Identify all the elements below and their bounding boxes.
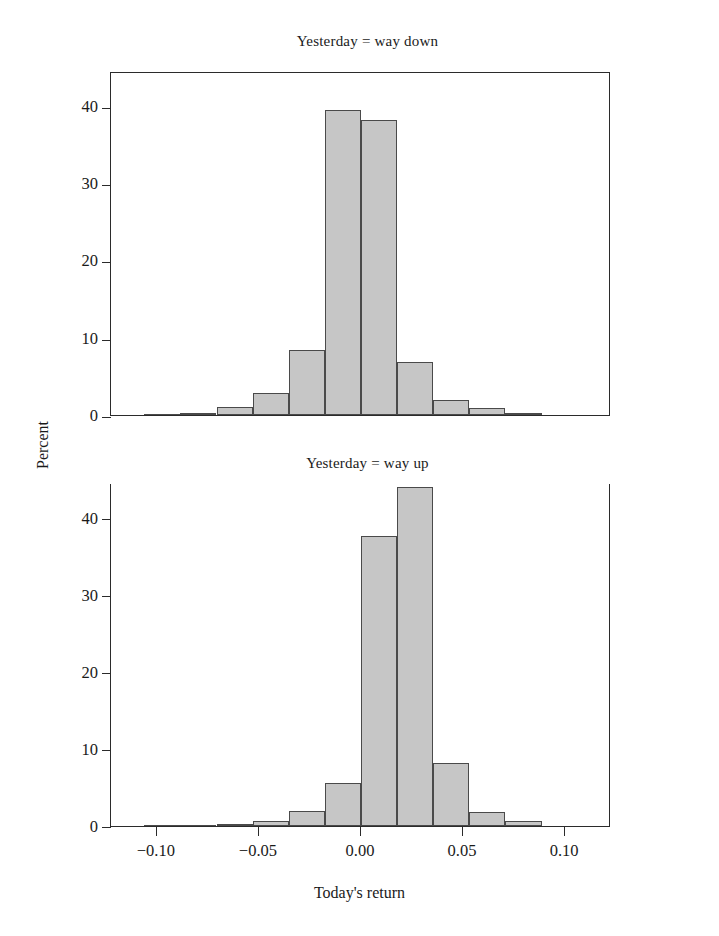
- y-axis-labels-bottom: 010203040: [56, 0, 98, 936]
- histogram-bar: [217, 407, 253, 416]
- histogram-bar: [361, 120, 397, 415]
- histogram-bar: [180, 825, 216, 826]
- histogram-bar: [397, 487, 433, 826]
- histogram-bar: [289, 811, 325, 826]
- y-axis-title: Percent: [34, 385, 52, 505]
- y-axis-tick-label: 40: [56, 509, 98, 529]
- y-axis-tick: [102, 262, 111, 263]
- y-axis-tick: [102, 519, 111, 520]
- histogram-bar: [433, 400, 469, 415]
- y-axis-tick: [102, 185, 111, 186]
- panel-title-top: Yesterday = way down: [8, 33, 719, 50]
- x-axis-tick: [564, 827, 565, 836]
- histogram-bar: [469, 408, 505, 415]
- x-axis-labels: −0.10−0.050.000.050.10: [110, 841, 610, 865]
- histogram-bar: [217, 824, 253, 826]
- x-axis-tick-label: −0.10: [137, 841, 175, 861]
- bars-bottom: [111, 484, 609, 826]
- y-axis-tick: [102, 673, 111, 674]
- histogram-bar: [433, 763, 469, 826]
- x-axis-tick: [258, 827, 259, 836]
- histogram-bar: [469, 812, 505, 826]
- y-axis-tick: [102, 750, 111, 751]
- x-axis-title: Today's return: [0, 884, 719, 902]
- histogram-bar: [361, 536, 397, 826]
- x-axis-tick-label: −0.05: [239, 841, 277, 861]
- histogram-bar: [505, 821, 541, 826]
- panel-title-bottom: Yesterday = way up: [8, 455, 719, 472]
- y-axis-tick: [102, 108, 111, 109]
- histogram-bar: [253, 393, 289, 415]
- histogram-bar: [144, 414, 180, 415]
- x-axis-tick-label: 0.05: [448, 841, 477, 861]
- x-axis-tick-label: 0.00: [346, 841, 375, 861]
- histogram-bar: [289, 350, 325, 415]
- plot-area-top: [110, 72, 610, 416]
- x-axis-tick: [360, 827, 361, 836]
- plot-area-bottom: [110, 484, 610, 827]
- y-axis-tick: [102, 417, 111, 418]
- y-axis-tick-label: 10: [56, 740, 98, 760]
- histogram-bar: [253, 821, 289, 826]
- histogram-bar: [505, 413, 541, 415]
- histogram-bar: [180, 413, 216, 415]
- histogram-bar: [325, 110, 361, 415]
- y-axis-tick-label: 30: [56, 586, 98, 606]
- y-axis-tick: [102, 340, 111, 341]
- x-axis-tick-label: 0.10: [550, 841, 579, 861]
- histogram-bar: [144, 825, 180, 826]
- figure: Yesterday = way down 010203040 Yesterday…: [0, 0, 719, 936]
- histogram-bar: [325, 783, 361, 826]
- y-axis-tick-label: 20: [56, 663, 98, 683]
- histogram-bar: [397, 362, 433, 415]
- y-axis-tick-label: 0: [56, 817, 98, 837]
- bars-top: [111, 73, 609, 415]
- x-axis-ticks: [110, 827, 610, 837]
- x-axis-tick: [156, 827, 157, 836]
- x-axis-tick: [462, 827, 463, 836]
- y-axis-tick: [102, 596, 111, 597]
